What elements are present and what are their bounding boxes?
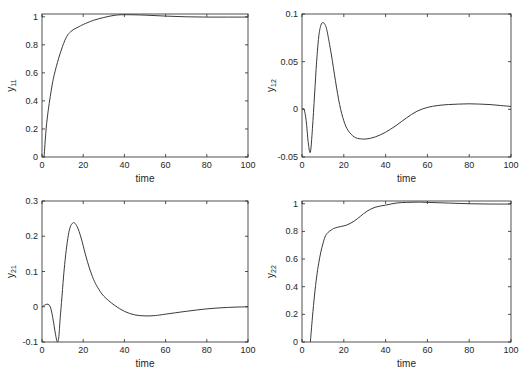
svg-text:80: 80 xyxy=(464,345,474,355)
x-axis-label: time xyxy=(136,358,155,369)
svg-text:0.1: 0.1 xyxy=(25,267,38,277)
svg-text:0.4: 0.4 xyxy=(285,282,298,292)
svg-text:0: 0 xyxy=(299,345,304,355)
svg-text:60: 60 xyxy=(422,345,432,355)
y-axis-label: y12 xyxy=(265,79,277,92)
svg-text:1: 1 xyxy=(33,12,38,22)
svg-text:20: 20 xyxy=(78,160,88,170)
svg-text:0: 0 xyxy=(39,160,44,170)
axes-box xyxy=(42,14,248,157)
x-axis-label: time xyxy=(397,358,416,369)
svg-text:100: 100 xyxy=(240,345,255,355)
svg-text:0.3: 0.3 xyxy=(25,196,38,206)
svg-text:100: 100 xyxy=(503,160,518,170)
svg-text:0: 0 xyxy=(293,337,298,347)
subplot-y21: 020406080100-0.100.10.20.3 time y21 xyxy=(5,196,256,369)
svg-text:0: 0 xyxy=(39,345,44,355)
svg-text:1: 1 xyxy=(293,199,298,209)
svg-text:0: 0 xyxy=(33,302,38,312)
svg-text:0.1: 0.1 xyxy=(285,9,298,19)
axes-box xyxy=(302,201,511,342)
subplot-y11: 02040608010000.20.40.60.81 time y11 xyxy=(5,12,256,184)
svg-text:0.4: 0.4 xyxy=(25,96,38,106)
svg-text:0.2: 0.2 xyxy=(285,309,298,319)
subplot-y22: 02040608010000.20.40.60.81 time y22 xyxy=(265,199,519,369)
x-axis-label: time xyxy=(397,173,416,184)
svg-text:-0.05: -0.05 xyxy=(277,152,298,162)
svg-text:40: 40 xyxy=(119,160,129,170)
x-axis-label: time xyxy=(136,173,155,184)
figure: 02040608010000.20.40.60.81 time y11 0204… xyxy=(0,0,525,381)
svg-text:0.6: 0.6 xyxy=(25,68,38,78)
svg-text:0.8: 0.8 xyxy=(25,40,38,50)
svg-text:40: 40 xyxy=(381,160,391,170)
svg-text:80: 80 xyxy=(202,160,212,170)
svg-text:-0.1: -0.1 xyxy=(22,337,38,347)
svg-text:0: 0 xyxy=(299,160,304,170)
svg-text:40: 40 xyxy=(381,345,391,355)
subplot-y12: 020406080100-0.0500.050.1 time y12 xyxy=(265,9,519,184)
axes-box xyxy=(42,201,248,342)
y-axis-label: y11 xyxy=(5,79,17,91)
svg-text:40: 40 xyxy=(119,345,129,355)
svg-text:100: 100 xyxy=(240,160,255,170)
svg-text:80: 80 xyxy=(464,160,474,170)
y-axis-label: y21 xyxy=(5,265,17,278)
svg-text:0.2: 0.2 xyxy=(25,231,38,241)
axes-box xyxy=(302,14,511,157)
svg-text:20: 20 xyxy=(339,160,349,170)
svg-text:0.8: 0.8 xyxy=(285,226,298,236)
svg-text:60: 60 xyxy=(422,160,432,170)
svg-text:20: 20 xyxy=(78,345,88,355)
svg-text:0: 0 xyxy=(293,104,298,114)
y-axis-label: y22 xyxy=(265,265,277,278)
svg-text:60: 60 xyxy=(161,160,171,170)
svg-text:20: 20 xyxy=(339,345,349,355)
svg-text:0.05: 0.05 xyxy=(280,57,298,67)
svg-text:0.6: 0.6 xyxy=(285,254,298,264)
svg-text:60: 60 xyxy=(161,345,171,355)
svg-text:0.2: 0.2 xyxy=(25,124,38,134)
svg-text:100: 100 xyxy=(503,345,518,355)
svg-text:0: 0 xyxy=(33,152,38,162)
svg-text:80: 80 xyxy=(202,345,212,355)
